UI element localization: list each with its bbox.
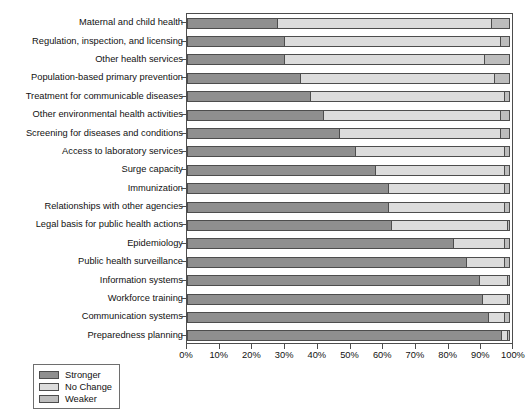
bar-row (187, 36, 512, 47)
category-label: Other health services (1, 54, 183, 64)
value-tick-label: 80% (438, 350, 457, 361)
bar-segment-stronger (187, 275, 480, 286)
category-label: Communication systems (1, 311, 183, 321)
bar-segment-stronger (187, 202, 389, 213)
value-tick-label: 50% (340, 350, 359, 361)
bar-segment-no-change (300, 73, 495, 84)
bar-segment-no-change (339, 128, 502, 139)
plot-area (186, 13, 513, 344)
bar-row (187, 165, 512, 176)
bar-row (187, 312, 512, 323)
bar-segment-weaker (504, 257, 511, 268)
legend-item: Stronger (39, 369, 112, 380)
value-tick-label: 0% (179, 350, 192, 361)
bar-segment-stronger (187, 36, 285, 47)
bar-row (187, 91, 512, 102)
category-label: Access to laboratory services (1, 146, 183, 156)
category-label: Legal basis for public health actions (1, 219, 183, 229)
bar-segment-weaker (504, 91, 511, 102)
category-label: Relationships with other agencies (1, 201, 183, 211)
category-label: Workforce training (1, 293, 183, 303)
legend-swatch-icon (39, 395, 59, 403)
bar-segment-weaker (500, 110, 510, 121)
bar-segment-no-change (284, 36, 502, 47)
value-tick (350, 344, 351, 349)
value-axis: 0%10%20%30%40%50%60%70%80%90%100% (186, 344, 513, 370)
bar-segment-weaker (507, 294, 510, 305)
bar-segment-weaker (504, 146, 511, 157)
bar-segment-no-change (466, 257, 505, 268)
bar-segment-weaker (507, 220, 510, 231)
legend-item: No Change (39, 381, 112, 392)
bar-segment-stronger (187, 110, 324, 121)
bar-segment-weaker (504, 238, 511, 249)
bar-segment-stronger (187, 183, 389, 194)
bar-segment-stronger (187, 73, 301, 84)
bar-row (187, 73, 512, 84)
bar-segment-weaker (504, 165, 511, 176)
bar-segment-no-change (453, 238, 505, 249)
bar-row (187, 275, 512, 286)
category-label: Epidemiology (1, 238, 183, 248)
bar-row (187, 238, 512, 249)
category-label: Preparedness planning (1, 330, 183, 340)
bar-segment-weaker (504, 183, 511, 194)
value-tick-label: 100% (501, 350, 525, 361)
value-tick (186, 344, 187, 349)
bar-row (187, 183, 512, 194)
bar-segment-stronger (187, 146, 356, 157)
bar-segment-stronger (187, 312, 489, 323)
value-tick (219, 344, 220, 349)
bar-segment-no-change (355, 146, 505, 157)
bar-segment-no-change (388, 183, 505, 194)
value-tick-label: 90% (471, 350, 490, 361)
category-label: Treatment for communicable diseases (1, 91, 183, 101)
value-tick (317, 344, 318, 349)
bar-segment-weaker (494, 73, 510, 84)
bar-segment-no-change (277, 18, 492, 29)
bar-segment-weaker (504, 202, 511, 213)
bar-segment-stronger (187, 330, 502, 341)
bar-row (187, 294, 512, 305)
legend-label: Weaker (65, 394, 97, 404)
value-tick (480, 344, 481, 349)
bar-segment-no-change (391, 220, 508, 231)
bar-segment-no-change (375, 165, 505, 176)
bar-segment-stronger (187, 257, 467, 268)
stacked-bar-chart: Maternal and child healthRegulation, ins… (0, 0, 532, 418)
bar-segment-stronger (187, 128, 340, 139)
value-tick (448, 344, 449, 349)
category-label: Public health surveillance (1, 256, 183, 266)
legend-swatch-icon (39, 371, 59, 379)
bar-segment-stronger (187, 54, 285, 65)
value-tick (512, 344, 513, 349)
value-tick (382, 344, 383, 349)
category-label: Surge capacity (1, 164, 183, 174)
bar-row (187, 54, 512, 65)
bar-row (187, 202, 512, 213)
bar-segment-no-change (310, 91, 505, 102)
category-label: Population-based primary prevention (1, 72, 183, 82)
bar-segment-stronger (187, 294, 483, 305)
bar-row (187, 128, 512, 139)
legend-item: Weaker (39, 393, 112, 404)
legend-label: No Change (65, 382, 112, 392)
bar-row (187, 220, 512, 231)
value-tick (251, 344, 252, 349)
bar-segment-stronger (187, 91, 311, 102)
bar-row (187, 257, 512, 268)
value-tick-label: 40% (307, 350, 326, 361)
bar-segment-stronger (187, 238, 454, 249)
category-label: Regulation, inspection, and licensing (1, 36, 183, 46)
bar-segment-weaker (507, 330, 510, 341)
category-label: Other environmental health activities (1, 109, 183, 119)
value-tick-label: 70% (406, 350, 425, 361)
bar-segment-weaker (500, 36, 510, 47)
bar-row (187, 330, 512, 341)
bar-segment-weaker (507, 275, 510, 286)
bar-segment-weaker (504, 312, 511, 323)
value-tick-label: 20% (242, 350, 261, 361)
category-label: Screening for diseases and conditions (1, 128, 183, 138)
category-label: Information systems (1, 275, 183, 285)
bar-segment-weaker (491, 18, 511, 29)
